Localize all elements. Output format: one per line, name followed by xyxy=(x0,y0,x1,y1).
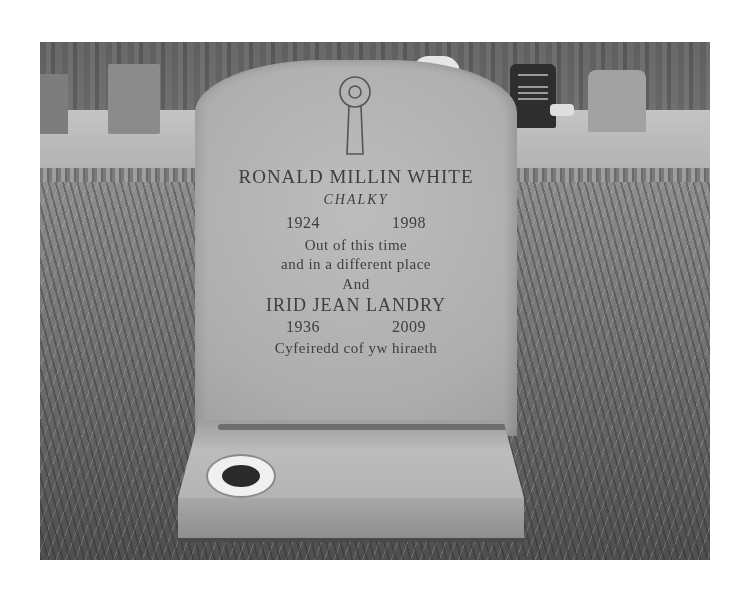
birth-year-1: 1924 xyxy=(286,214,320,232)
etched-line xyxy=(518,74,548,76)
headstone: RONALD MILLIN WHITE CHALKY 19241998 Out … xyxy=(195,60,517,436)
flower-vase-hole-icon xyxy=(208,456,274,496)
nickname-1: CHALKY xyxy=(195,192,517,208)
inscription: RONALD MILLIN WHITE CHALKY 19241998 Out … xyxy=(195,166,517,357)
cemetery-photo: RONALD MILLIN WHITE CHALKY 19241998 Out … xyxy=(40,42,710,560)
etched-line xyxy=(518,92,548,94)
background-flowers xyxy=(550,104,574,116)
welsh-epitaph: Cyfeiredd cof yw hiraeth xyxy=(195,340,517,357)
deceased-name-1: RONALD MILLIN WHITE xyxy=(195,166,517,188)
moss-line xyxy=(218,424,508,430)
birth-year-2: 1936 xyxy=(286,318,320,336)
dates-2: 19362009 xyxy=(195,318,517,336)
etched-line xyxy=(518,86,548,88)
conjunction: And xyxy=(195,276,517,293)
headstone-base xyxy=(168,420,534,546)
dates-1: 19241998 xyxy=(195,214,517,232)
verse-line-2: and in a different place xyxy=(195,255,517,274)
background-gravestone-left-edge xyxy=(40,74,68,134)
deceased-name-2: IRID JEAN LANDRY xyxy=(195,295,517,316)
etched-line xyxy=(518,98,548,100)
base-front-face xyxy=(178,498,524,542)
death-year-2: 2009 xyxy=(392,318,426,336)
death-year-1: 1998 xyxy=(392,214,426,232)
verse-line-1: Out of this time xyxy=(195,236,517,255)
background-gravestone-left xyxy=(108,64,160,134)
background-gravestone-right xyxy=(588,70,646,132)
ring-cross-emblem-icon xyxy=(335,74,375,156)
